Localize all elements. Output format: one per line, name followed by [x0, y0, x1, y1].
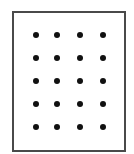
grid-dot: [33, 78, 39, 84]
grid-dot: [77, 101, 83, 107]
grid-dot: [33, 55, 39, 61]
grid-dot: [33, 124, 39, 130]
grid-dot: [100, 124, 106, 130]
grid-dot: [54, 124, 60, 130]
grid-dot: [33, 32, 39, 38]
grid-dot: [77, 124, 83, 130]
grid-dot: [54, 32, 60, 38]
grid-dot: [77, 55, 83, 61]
dot-grid-frame: [12, 11, 126, 152]
grid-dot: [100, 78, 106, 84]
grid-dot: [77, 78, 83, 84]
grid-dot: [54, 101, 60, 107]
grid-dot: [100, 101, 106, 107]
grid-dot: [100, 32, 106, 38]
grid-dot: [33, 101, 39, 107]
grid-dot: [54, 55, 60, 61]
grid-dot: [77, 32, 83, 38]
grid-dot: [100, 55, 106, 61]
grid-dot: [54, 78, 60, 84]
